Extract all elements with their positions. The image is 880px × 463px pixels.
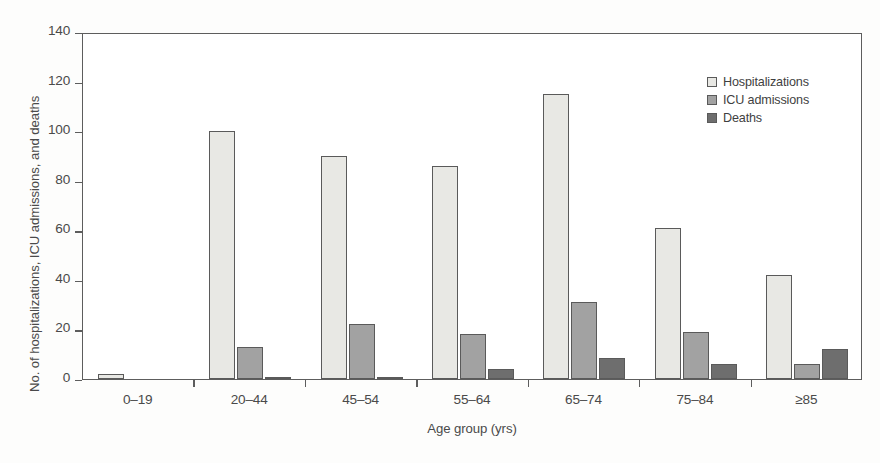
- y-axis-tick: 140: [0, 33, 82, 34]
- chart-legend: Hospitalizations ICU admissions Deaths: [707, 73, 857, 127]
- legend-label-deaths: Deaths: [723, 111, 762, 125]
- y-tick-mark: [75, 380, 82, 381]
- bar-icu-admissions: [237, 347, 263, 379]
- bar-hospitalizations: [655, 228, 681, 379]
- plot-area: Hospitalizations ICU admissions Deaths: [82, 33, 862, 380]
- y-axis-tick: 100: [0, 132, 82, 133]
- legend-label-icu-admissions: ICU admissions: [723, 93, 809, 107]
- bar-deaths: [599, 358, 625, 379]
- y-tick-mark: [75, 182, 82, 183]
- y-axis-title: No. of hospitalizations, ICU admissions,…: [24, 0, 46, 392]
- y-tick-mark: [75, 132, 82, 133]
- y-tick-label: 60: [55, 221, 70, 236]
- y-tick-label: 80: [55, 172, 70, 187]
- legend-swatch-deaths: [707, 113, 717, 123]
- bar-hospitalizations: [321, 156, 347, 379]
- bar-icu-admissions: [683, 332, 709, 379]
- x-tick-label: 20–44: [189, 392, 309, 407]
- bar-deaths: [711, 364, 737, 379]
- y-tick-label: 100: [48, 122, 70, 137]
- x-tick-mark: [751, 380, 752, 387]
- y-axis-tick: 0: [0, 380, 82, 381]
- bar-icu-admissions: [349, 324, 375, 379]
- x-tick-mark: [639, 380, 640, 387]
- bar-hospitalizations: [98, 374, 124, 379]
- legend-item-icu-admissions: ICU admissions: [707, 91, 857, 108]
- y-axis-tick: 60: [0, 231, 82, 232]
- legend-swatch-icu-admissions: [707, 95, 717, 105]
- y-tick-label: 0: [63, 370, 70, 385]
- y-tick-label: 40: [55, 271, 70, 286]
- legend-swatch-hospitalizations: [707, 77, 717, 87]
- bar-icu-admissions: [571, 302, 597, 379]
- y-tick-mark: [75, 83, 82, 84]
- bar-deaths: [265, 377, 291, 379]
- y-axis-tick: 80: [0, 182, 82, 183]
- x-tick-label: 45–54: [301, 392, 421, 407]
- chart-figure: No. of hospitalizations, ICU admissions,…: [0, 0, 880, 463]
- legend-item-deaths: Deaths: [707, 109, 857, 126]
- x-tick-mark: [416, 380, 417, 387]
- bar-icu-admissions: [794, 364, 820, 379]
- bar-deaths: [377, 377, 403, 379]
- bar-hospitalizations: [543, 94, 569, 379]
- y-tick-mark: [75, 231, 82, 232]
- bar-icu-admissions: [460, 334, 486, 379]
- bar-hospitalizations: [766, 275, 792, 379]
- y-axis-tick: 20: [0, 330, 82, 331]
- y-tick-label: 140: [48, 23, 70, 38]
- legend-label-hospitalizations: Hospitalizations: [723, 75, 809, 89]
- x-tick-mark: [193, 380, 194, 387]
- bar-hospitalizations: [209, 131, 235, 379]
- y-tick-label: 20: [55, 320, 70, 335]
- y-tick-label: 120: [48, 73, 70, 88]
- bar-deaths: [822, 349, 848, 379]
- y-tick-mark: [75, 330, 82, 331]
- x-tick-label: 75–84: [635, 392, 755, 407]
- y-tick-mark: [75, 33, 82, 34]
- x-tick-label: 0–19: [78, 392, 198, 407]
- bar-deaths: [488, 369, 514, 379]
- bar-hospitalizations: [432, 166, 458, 379]
- y-tick-mark: [75, 281, 82, 282]
- y-axis-tick: 120: [0, 83, 82, 84]
- x-tick-label: ≥85: [746, 392, 866, 407]
- x-tick-label: 65–74: [523, 392, 643, 407]
- legend-item-hospitalizations: Hospitalizations: [707, 73, 857, 90]
- x-tick-mark: [305, 380, 306, 387]
- x-tick-mark: [528, 380, 529, 387]
- x-axis-title: Age group (yrs): [82, 421, 862, 436]
- x-tick-label: 55–64: [412, 392, 532, 407]
- y-axis-tick: 40: [0, 281, 82, 282]
